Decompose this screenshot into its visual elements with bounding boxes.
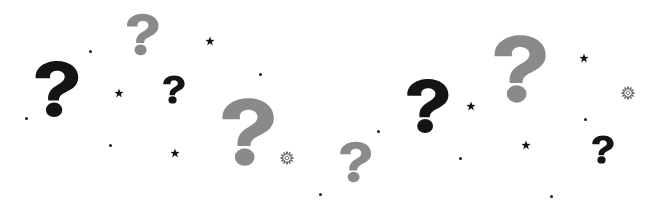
dot-icon: [89, 50, 92, 53]
star-icon: [205, 36, 215, 46]
dot-icon: [459, 157, 462, 160]
question-mark-icon: [161, 75, 186, 104]
question-mark-icon: [490, 34, 548, 104]
star-icon: [114, 88, 124, 98]
star-icon: [521, 140, 531, 150]
dot-icon: [259, 73, 262, 76]
dot-icon: [377, 130, 380, 133]
star-icon: [170, 148, 180, 158]
question-mark-icon: [590, 135, 615, 164]
star-icon: [579, 53, 589, 63]
star-icon: [466, 101, 476, 111]
dot-icon: [550, 195, 553, 198]
dot-icon: [25, 117, 28, 120]
dot-icon: [584, 118, 587, 121]
question-mark-icon: [216, 97, 278, 167]
dot-icon: [109, 144, 112, 147]
question-mark-icon: [31, 60, 81, 118]
sparkle-burst-icon: [280, 151, 294, 165]
sparkle-burst-icon: [621, 86, 635, 100]
question-mark-icon: [336, 141, 374, 183]
question-mark-icon: [403, 78, 451, 134]
question-marks-illustration: [0, 0, 662, 210]
dot-icon: [319, 193, 322, 196]
question-mark-icon: [124, 13, 160, 56]
